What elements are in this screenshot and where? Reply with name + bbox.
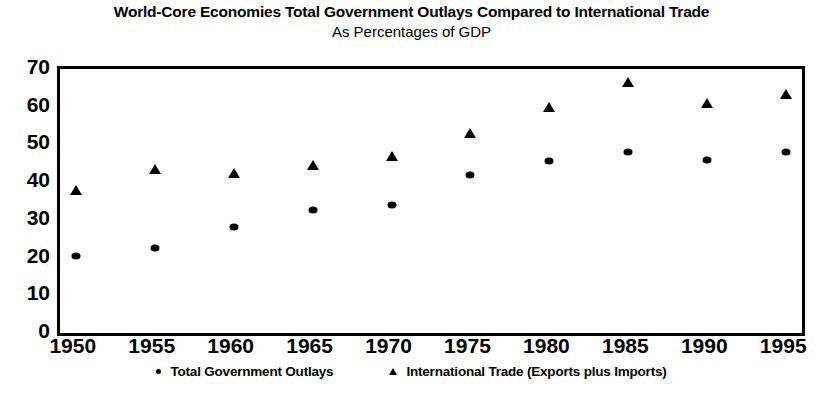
x-axis-tick-label: 1990 [681,334,728,357]
legend-item-total-government-outlays: Total Government Outlays [156,364,333,379]
y-axis-tick-label: 0 [4,320,50,341]
dot-marker-icon [156,369,161,374]
x-axis-labels: 1950195519601965197019751980198519901995 [57,334,799,362]
data-point-total-government-outlays [150,245,159,252]
y-axis-tick-label: 30 [4,206,50,227]
data-point-international-trade [464,128,476,138]
data-point-total-government-outlays [466,171,475,178]
chart-container: World-Core Economies Total Government Ou… [0,0,823,394]
y-axis-tick-label: 60 [4,93,50,114]
x-axis-tick-label: 1965 [286,334,333,357]
data-point-total-government-outlays [308,207,317,214]
x-axis-tick-label: 1980 [523,334,570,357]
y-axis-labels: 010203040506070 [0,66,50,330]
data-point-total-government-outlays [229,224,238,231]
x-axis-tick-label: 1950 [49,334,96,357]
legend-label: Total Government Outlays [170,364,333,379]
data-point-international-trade [622,77,634,87]
x-axis-tick-label: 1995 [760,334,807,357]
x-axis-tick-label: 1975 [444,334,491,357]
data-point-total-government-outlays [624,148,633,155]
title-block: World-Core Economies Total Government Ou… [0,2,823,41]
x-axis-tick-label: 1985 [602,334,649,357]
data-point-total-government-outlays [545,158,554,165]
data-point-international-trade [701,98,713,108]
data-point-international-trade [70,185,82,195]
data-point-international-trade [780,89,792,99]
chart-title: World-Core Economies Total Government Ou… [0,2,823,21]
y-axis-tick-label: 10 [4,282,50,303]
data-point-international-trade [386,151,398,161]
y-axis-tick-label: 50 [4,131,50,152]
data-point-total-government-outlays [782,148,791,155]
data-point-international-trade [228,168,240,178]
data-point-total-government-outlays [71,252,80,259]
chart-subtitle: As Percentages of GDP [0,22,823,41]
y-axis-tick-label: 20 [4,244,50,265]
chart-legend: Total Government Outlays International T… [0,364,823,379]
data-point-total-government-outlays [387,201,396,208]
legend-label: International Trade (Exports plus Import… [406,364,666,379]
data-point-international-trade [543,102,555,112]
y-axis-tick-label: 40 [4,169,50,190]
data-point-international-trade [307,160,319,170]
x-axis-tick-label: 1970 [365,334,412,357]
y-axis-tick-label: 70 [4,56,50,77]
legend-item-international-trade: International Trade (Exports plus Import… [389,364,666,379]
x-axis-tick-label: 1955 [128,334,175,357]
x-axis-tick-label: 1960 [207,334,254,357]
data-point-international-trade [149,164,161,174]
plot-area [57,66,805,336]
triangle-marker-icon [389,368,397,375]
data-point-total-government-outlays [703,156,712,163]
